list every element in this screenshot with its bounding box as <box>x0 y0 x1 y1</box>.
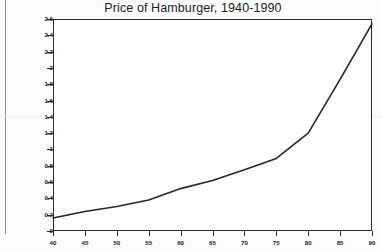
x-axis-tick-mark <box>308 231 309 236</box>
x-axis-tick-mark <box>276 231 277 236</box>
y-axis-tick-label: 0.2 <box>9 210 53 220</box>
x-axis-tick-label: 90 <box>358 238 382 248</box>
x-axis-tick-mark <box>181 231 182 236</box>
y-axis-tick-label: 1.6 <box>9 96 53 106</box>
x-axis-tick-mark <box>244 231 245 236</box>
data-line-series <box>53 19 372 231</box>
y-axis-tick-label: 0.6 <box>9 177 53 187</box>
y-axis-tick-label: 1.4 <box>9 112 53 122</box>
y-axis: 00.20.40.60.811.21.41.61.822.22.42.6 <box>0 0 53 212</box>
y-axis-tick-label: 0.4 <box>9 193 53 203</box>
x-axis-tick-mark <box>149 231 150 236</box>
y-axis-tick-label: 1.2 <box>9 128 53 138</box>
y-axis-tick-label: 2.4 <box>9 30 53 40</box>
x-axis-tick-mark <box>213 231 214 236</box>
x-axis-tick-mark <box>117 231 118 236</box>
x-axis-tick-mark <box>53 231 54 236</box>
y-axis-tick-label: 1 <box>9 144 53 154</box>
chart-title: Price of Hamburger, 1940-1990 <box>63 0 323 17</box>
chart-container: Price of Hamburger, 1940-1990 00.20.40.6… <box>0 0 382 251</box>
y-axis-tick-label: 0.8 <box>9 161 53 171</box>
y-axis-tick-label: 2.2 <box>9 47 53 57</box>
x-axis: 4045505560657075808590 <box>53 231 372 251</box>
x-axis-tick-label: 50 <box>103 238 131 248</box>
x-axis-tick-mark <box>340 231 341 236</box>
x-axis-tick-label: 60 <box>167 238 195 248</box>
y-axis-tick-label: 2 <box>9 63 53 73</box>
x-axis-tick-label: 75 <box>262 238 290 248</box>
x-axis-tick-label: 85 <box>326 238 354 248</box>
x-axis-tick-label: 65 <box>199 238 227 248</box>
y-axis-tick-label: 2.6 <box>9 14 53 24</box>
x-axis-tick-label: 40 <box>39 238 67 248</box>
x-axis-tick-label: 45 <box>71 238 99 248</box>
x-axis-tick-label: 70 <box>230 238 258 248</box>
x-axis-tick-label: 55 <box>135 238 163 248</box>
x-axis-tick-mark <box>85 231 86 236</box>
y-axis-tick-label: 1.8 <box>9 79 53 89</box>
y-axis-tick-label: 0 <box>9 226 53 236</box>
x-axis-tick-mark <box>372 231 373 236</box>
x-axis-tick-label: 80 <box>294 238 322 248</box>
